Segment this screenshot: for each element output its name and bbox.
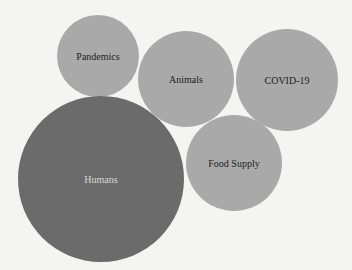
bubble-food-supply: Food Supply [186,115,282,211]
bubble-pandemics: Pandemics [57,15,139,97]
bubble-label-humans: Humans [84,174,117,185]
bubble-label-covid-19: COVID-19 [265,75,310,86]
bubble-humans: Humans [18,96,184,262]
bubble-label-animals: Animals [169,74,203,85]
bubble-label-pandemics: Pandemics [76,51,119,62]
bubble-covid-19: COVID-19 [236,29,338,131]
bubble-label-food-supply: Food Supply [208,158,259,169]
bubble-chart: Pandemics Animals COVID-19 Humans Food S… [0,0,352,270]
bubble-animals: Animals [138,31,234,127]
